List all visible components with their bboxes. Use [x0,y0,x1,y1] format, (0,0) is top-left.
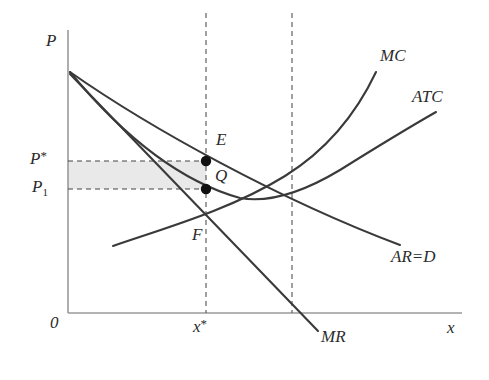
curve-label-atc: ATC [412,87,443,107]
tick-label-p-one-text: P [32,177,42,196]
economics-diagram: P x 0 P* P1 x* E Q F MC ATC AR=D MR [0,0,489,380]
point-Q [201,184,211,194]
point-label-F: F [192,225,202,245]
point-label-Q: Q [215,166,227,186]
x-axis-label: x [447,318,455,338]
tick-label-x-star-superscript: * [201,316,208,331]
tick-label-p-one-subscript: 1 [42,186,48,198]
curve-label-mr: MR [321,327,346,347]
tick-label-p-star: P* [30,148,47,169]
y-axis-label: P [46,31,56,51]
point-E [201,156,211,166]
chart-canvas [0,0,489,380]
tick-label-p-star-superscript: * [40,148,47,163]
curve-label-mc: MC [380,46,406,66]
tick-label-x-star-text: x [193,317,201,336]
curve-ar-d [70,72,400,245]
tick-label-p-one: P1 [32,177,48,198]
origin-label: 0 [50,313,59,333]
point-label-E: E [216,130,226,150]
tick-label-x-star: x* [193,316,207,337]
curve-label-ar-d: AR=D [391,247,436,267]
tick-label-p-star-text: P [30,149,40,168]
